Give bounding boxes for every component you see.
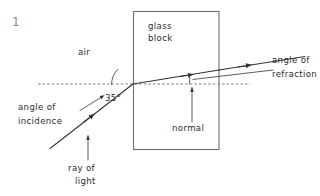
refracted-ray-direction-arrow (180, 74, 193, 76)
angle-of-incidence-arc (112, 70, 118, 85)
angle-of-incidence-label-line2: incidence (18, 116, 62, 126)
air-label: air (78, 47, 90, 57)
normal-label: normal (172, 123, 204, 133)
angle-of-refraction-leader (193, 70, 273, 80)
refracted-ray-line (133, 70, 219, 84)
angle-of-incidence-leader (80, 96, 104, 111)
angle-of-refraction-label-line1: angle of (272, 55, 310, 65)
emergent-ray-direction-arrow (238, 65, 251, 67)
angle-of-incidence-label-line1: angle of (18, 102, 56, 112)
glass-block-label-line1: glass (148, 21, 172, 31)
incident-ray-direction-arrow (84, 114, 94, 122)
glass-block-label-line2: block (148, 33, 173, 43)
angle-value-label: 35° (105, 93, 121, 103)
refraction-diagram: 1 air glass block 35° angle of incidence… (0, 0, 320, 196)
worksheet-page: 1 air glass block 35° angle of incidence… (0, 0, 320, 196)
question-number: 1 (12, 15, 20, 29)
angle-of-refraction-label-line2: refraction (272, 69, 317, 79)
ray-of-light-label-line1: ray of (68, 163, 96, 173)
ray-of-light-label-line2: light (75, 176, 96, 186)
